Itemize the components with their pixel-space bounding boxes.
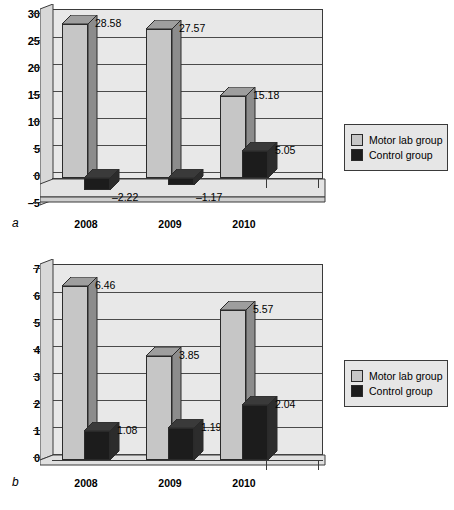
y-tick-mark (33, 322, 40, 323)
data-label-control-2010-b: 2.04 (275, 399, 295, 410)
x-tick-label-2008-b: 2008 (56, 477, 116, 489)
data-label-control-2008-a: –2.22 (112, 192, 138, 203)
bar-control-2008-a (84, 178, 110, 190)
y-tick-label: 25 (10, 36, 40, 46)
legend-label-control: Control group (369, 385, 433, 397)
legend-item-control-b: Control group (351, 385, 440, 397)
x-tick-mark (318, 460, 319, 470)
bar-motor-2009-a (146, 29, 172, 178)
data-label-motor-2008-a: 28.58 (95, 18, 121, 29)
data-label-control-2010-a: 5.05 (275, 145, 295, 156)
data-label-motor-2009-a: 27.57 (179, 23, 205, 34)
legend-label-motor: Motor lab group (369, 370, 443, 382)
panel-label-b: b (12, 475, 19, 489)
x-tick-label-2008-a: 2008 (56, 218, 116, 230)
bar-motor-2008-a (62, 24, 88, 178)
legend-swatch-control-icon (351, 149, 363, 161)
y-tick-label: 0 (10, 171, 40, 181)
y-tick-label: 4 (10, 345, 40, 355)
y-tick-mark (33, 175, 40, 176)
y-tick-mark (33, 40, 40, 41)
y-tick-mark (33, 376, 40, 377)
y-tick-label: –5 (10, 198, 40, 208)
y-tick-label: 1 (10, 426, 40, 436)
chart-panel-b: 7 6 5 4 3 2 1 0 (0, 255, 454, 510)
x-tick-mark (266, 178, 267, 188)
y-tick-mark (33, 13, 40, 14)
y-tick-mark (33, 349, 40, 350)
y-tick-mark (33, 457, 40, 458)
data-label-control-2009-a: –1.17 (196, 192, 222, 203)
x-tick-label-2010-b: 2010 (214, 477, 274, 489)
legend-item-motor-a: Motor lab group (351, 134, 440, 146)
legend-swatch-motor-icon (351, 370, 363, 382)
bar-control-2008-b (84, 431, 110, 460)
x-tick-mark (266, 460, 267, 470)
data-label-control-2008-b: 1.08 (117, 425, 137, 436)
y-tick-label: 5 (10, 144, 40, 154)
bar-control-2009-a (168, 178, 194, 185)
legend-swatch-motor-icon (351, 134, 363, 146)
y-tick-mark (33, 295, 40, 296)
legend-swatch-control-icon (351, 385, 363, 397)
y-tick-label: 10 (10, 117, 40, 127)
chart-panel-a: 30 25 20 15 10 5 0 –5 (0, 0, 454, 255)
x-tick-label-2009-b: 2009 (140, 477, 200, 489)
legend-panel-b: Motor lab group Control group (344, 360, 448, 407)
panel-label-a: a (12, 216, 19, 230)
legend-item-motor-b: Motor lab group (351, 370, 440, 382)
data-label-motor-2008-b: 6.46 (95, 280, 115, 291)
y-tick-label: 15 (10, 90, 40, 100)
y-tick-mark (33, 268, 40, 269)
legend-panel-a: Motor lab group Control group (344, 124, 448, 171)
data-label-control-2009-b: 1.19 (201, 422, 221, 433)
y-tick-label: 7 (10, 264, 40, 274)
y-axis-panel-a: 30 25 20 15 10 5 0 –5 (0, 0, 40, 255)
y-tick-mark (33, 148, 40, 149)
y-tick-label: 0 (10, 453, 40, 463)
legend-item-control-a: Control group (351, 149, 440, 161)
y-tick-label: 5 (10, 318, 40, 328)
y-tick-mark (33, 430, 40, 431)
x-tick-label-2009-a: 2009 (140, 218, 200, 230)
y-tick-label: 20 (10, 63, 40, 73)
data-label-motor-2010-b: 5.57 (253, 304, 273, 315)
bar-control-2010-b (242, 405, 268, 460)
y-tick-mark (33, 67, 40, 68)
y-tick-mark (33, 202, 40, 203)
bar-control-2009-b (168, 428, 194, 460)
y-tick-label: 30 (10, 9, 40, 19)
bar-control-2010-a (242, 151, 268, 178)
y-axis-panel-b: 7 6 5 4 3 2 1 0 (0, 255, 40, 510)
y-tick-mark (33, 403, 40, 404)
x-tick-label-2010-a: 2010 (214, 218, 274, 230)
legend-label-control: Control group (369, 149, 433, 161)
legend-label-motor: Motor lab group (369, 134, 443, 146)
x-tick-mark (318, 178, 319, 188)
y-tick-label: 2 (10, 399, 40, 409)
y-tick-mark (33, 121, 40, 122)
plot-left-wall (40, 259, 56, 471)
data-label-motor-2010-a: 15.18 (253, 90, 279, 101)
y-tick-mark (33, 94, 40, 95)
data-label-motor-2009-b: 3.85 (179, 350, 199, 361)
two-panel-bar-chart-figure: 30 25 20 15 10 5 0 –5 (0, 0, 454, 510)
y-tick-label: 3 (10, 372, 40, 382)
y-tick-label: 6 (10, 291, 40, 301)
